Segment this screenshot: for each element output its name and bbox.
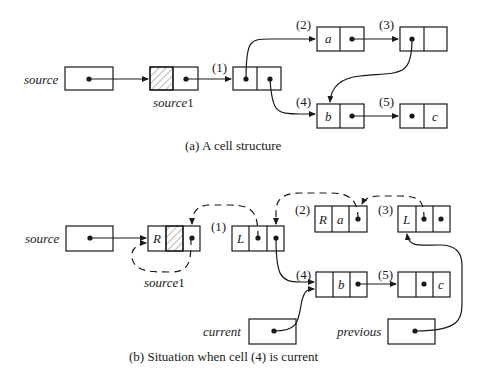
a-source1-hatched-field [150, 67, 173, 90]
b-dashed-cell2-to-cell1 [276, 193, 358, 224]
b-cell2-tag: R [318, 212, 327, 227]
a-label-n5: (5) [379, 94, 394, 109]
b-label-n3: (3) [378, 202, 393, 217]
a-label-n2: (2) [296, 17, 311, 32]
b-label-source1: source1 [144, 275, 185, 290]
b-cell2-value: a [337, 212, 344, 227]
a-caption: (a) A cell structure [185, 138, 282, 153]
b-caption: (b) Situation when cell (4) is current [129, 349, 319, 364]
a-label-source: source [24, 72, 58, 87]
a-cell5-value: c [432, 109, 438, 124]
b-label-n5: (5) [378, 267, 393, 282]
a-label-n1: (1) [212, 60, 227, 75]
b-label-n1: (1) [211, 219, 226, 234]
b-source1-tag: R [152, 231, 161, 246]
a-label-n3: (3) [379, 17, 394, 32]
a-label-n4: (4) [296, 94, 311, 109]
pointer-dots [86, 36, 443, 333]
cell-structure-diagram: source source1 (1) (2) (3) (4) (5) a b c… [0, 0, 483, 372]
b-arrow-previous-to-cell3 [407, 234, 462, 331]
b-label-n2: (2) [295, 202, 310, 217]
a-label-source1: source1 [153, 95, 194, 110]
b-cell4-value: b [338, 277, 345, 292]
a-cell4-value: b [325, 109, 332, 124]
b-cell3-tag: L [402, 212, 410, 227]
b-label-source: source [25, 231, 59, 246]
a-cell2-value: a [325, 31, 332, 46]
b-arrow-current-to-cell4 [274, 289, 314, 331]
b-label-n4: (4) [296, 267, 311, 282]
b-source1-hatched-field [166, 226, 183, 251]
b-cell5-value: c [438, 277, 444, 292]
b-label-current: current [203, 324, 241, 339]
b-label-previous: previous [336, 324, 381, 339]
b-previous-box [388, 319, 435, 344]
b-cell1-tag: L [236, 231, 244, 246]
